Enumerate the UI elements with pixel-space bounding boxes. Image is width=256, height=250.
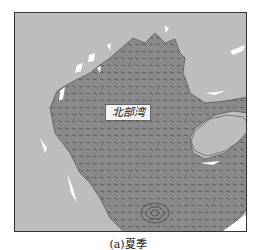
map-frame: 北部湾 [14,12,247,232]
map-canvas [15,13,247,232]
gulf-label: 北部湾 [105,104,151,121]
figure-caption: (a)夏季 [0,235,256,250]
